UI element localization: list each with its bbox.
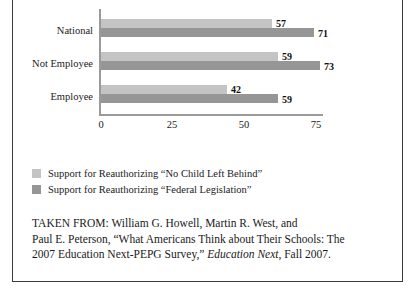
bar-value-national-federal: 71 [318, 29, 328, 38]
bar-not-employee-nclb [101, 52, 278, 61]
bar-value-employee-nclb: 42 [231, 85, 241, 94]
x-tick-label-0: 0 [89, 119, 113, 131]
citation-journal-name: Education Next [207, 248, 278, 260]
category-label-national: National [13, 25, 93, 36]
figure-frame: National Not Employee Employee 57 71 59 … [12, 0, 403, 282]
citation-line-2: Paul E. Peterson, “What Americans Think … [32, 232, 390, 248]
chart-legend: Support for Reauthorizing “No Child Left… [32, 163, 392, 195]
x-tick-label-25: 25 [160, 119, 184, 131]
citation-line-3-prefix: 2007 Education Next-PEPG Survey,” [32, 248, 207, 260]
bar-value-national-nclb: 57 [276, 19, 286, 28]
bar-national-nclb [101, 19, 272, 28]
category-label-employee: Employee [13, 91, 93, 102]
citation-line-1: TAKEN FROM: William G. Howell, Martin R.… [32, 216, 390, 232]
bar-chart: National Not Employee Employee 57 71 59 … [13, 1, 404, 131]
bar-value-employee-federal: 59 [282, 95, 292, 104]
light-swatch-icon [32, 169, 41, 178]
plot-area: 57 71 59 73 42 59 0 25 50 75 [99, 9, 324, 115]
x-tick-label-50: 50 [232, 119, 256, 131]
legend-item-nclb: Support for Reauthorizing “No Child Left… [32, 163, 392, 179]
bar-national-federal [101, 28, 314, 37]
legend-label-federal: Support for Reauthorizing “Federal Legis… [48, 184, 252, 195]
source-citation: TAKEN FROM: William G. Howell, Martin R.… [32, 216, 390, 263]
legend-item-federal: Support for Reauthorizing “Federal Legis… [32, 179, 392, 195]
bar-value-not-employee-nclb: 59 [282, 52, 292, 61]
bar-employee-nclb [101, 85, 227, 94]
dark-swatch-icon [32, 185, 41, 194]
bar-not-employee-federal [101, 61, 320, 70]
citation-line-3-suffix: , Fall 2007. [278, 248, 330, 260]
bar-employee-federal [101, 94, 278, 103]
citation-line-3: 2007 Education Next-PEPG Survey,” Educat… [32, 247, 390, 263]
x-tick-label-75: 75 [304, 119, 328, 131]
category-label-not-employee: Not Employee [13, 58, 93, 69]
x-axis-line [99, 114, 323, 116]
bar-value-not-employee-federal: 73 [324, 62, 334, 71]
legend-label-nclb: Support for Reauthorizing “No Child Left… [48, 168, 262, 179]
